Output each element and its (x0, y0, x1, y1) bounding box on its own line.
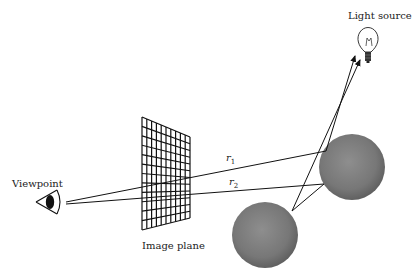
image-plane-grid (142, 117, 190, 230)
ray-tracing-diagram (0, 0, 413, 277)
light-source-label: Light source (348, 10, 412, 21)
sphere-lower (232, 202, 298, 268)
sphere-upper-right (319, 134, 385, 200)
light-bulb-icon (358, 28, 378, 64)
ray-label-r2: r2 (229, 176, 238, 190)
ray-label-r1: r1 (226, 152, 235, 166)
eye-icon (36, 190, 60, 214)
viewpoint-label: Viewpoint (12, 178, 63, 189)
image-plane-label: Image plane (142, 240, 205, 251)
reflection-ray-sphere2-to-sphere1 (292, 184, 324, 211)
primary-rays (66, 151, 326, 204)
